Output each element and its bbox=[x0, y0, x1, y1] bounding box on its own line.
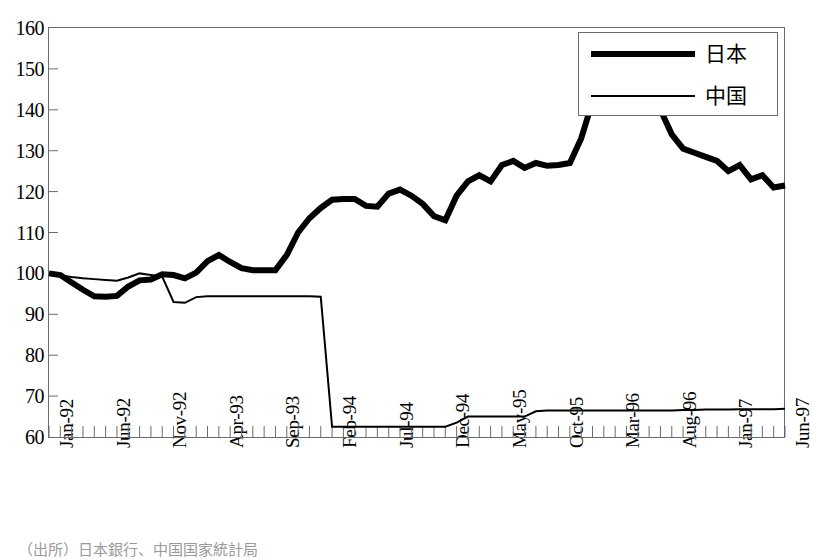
legend-line-swatch-thin bbox=[591, 95, 695, 97]
legend: 日本中国 bbox=[578, 32, 778, 116]
x-tick-label: Jun-97 bbox=[793, 398, 812, 448]
legend-item: 中国 bbox=[579, 75, 777, 117]
legend-line-swatch-thick bbox=[591, 51, 695, 57]
series-line-china bbox=[49, 273, 785, 426]
legend-item-label: 中国 bbox=[705, 86, 747, 107]
data-series-group bbox=[49, 71, 785, 427]
legend-item: 日本 bbox=[579, 33, 777, 75]
legend-item-label: 日本 bbox=[705, 44, 747, 65]
y-axis-ticks bbox=[49, 69, 58, 396]
source-caption: （出所）日本銀行、中国国家統計局 bbox=[18, 543, 258, 558]
